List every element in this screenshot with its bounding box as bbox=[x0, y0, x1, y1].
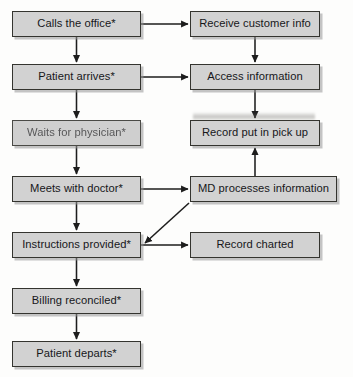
node-label: Patient arrives* bbox=[38, 71, 115, 82]
node-label: Patient departs* bbox=[36, 348, 116, 359]
node-label: Waits for physician* bbox=[27, 127, 126, 138]
node-instructions-provided[interactable]: Instructions provided* bbox=[12, 232, 141, 258]
node-label: Record put in pick up bbox=[202, 127, 308, 138]
node-label: Record charted bbox=[216, 239, 293, 250]
node-patient-departs[interactable]: Patient departs* bbox=[12, 341, 141, 367]
node-record-charted[interactable]: Record charted bbox=[190, 232, 320, 258]
node-label: Access information bbox=[207, 71, 302, 82]
node-meets-with-doctor[interactable]: Meets with doctor* bbox=[12, 176, 141, 202]
node-billing-reconciled[interactable]: Billing reconciled* bbox=[12, 288, 141, 314]
node-md-processes-information[interactable]: MD processes information bbox=[190, 176, 337, 202]
node-patient-arrives[interactable]: Patient arrives* bbox=[12, 64, 141, 90]
node-record-put-in-pick-up[interactable]: Record put in pick up bbox=[190, 120, 320, 146]
node-access-information[interactable]: Access information bbox=[190, 64, 320, 90]
node-receive-customer-info[interactable]: Receive customer info bbox=[190, 11, 320, 37]
node-label: Instructions provided* bbox=[22, 239, 131, 250]
node-label: Receive customer info bbox=[199, 18, 311, 29]
node-label: MD processes information bbox=[198, 183, 329, 194]
node-label: Billing reconciled* bbox=[32, 295, 121, 306]
node-label: Meets with doctor* bbox=[30, 183, 123, 194]
node-calls-office[interactable]: Calls the office* bbox=[12, 11, 141, 37]
node-label: Calls the office* bbox=[37, 18, 115, 29]
edge-md-processes-to-instructions bbox=[145, 203, 189, 243]
flowchart-canvas: Calls the office* Patient arrives* Waits… bbox=[0, 0, 353, 377]
node-waits-for-physician[interactable]: Waits for physician* bbox=[12, 120, 141, 146]
